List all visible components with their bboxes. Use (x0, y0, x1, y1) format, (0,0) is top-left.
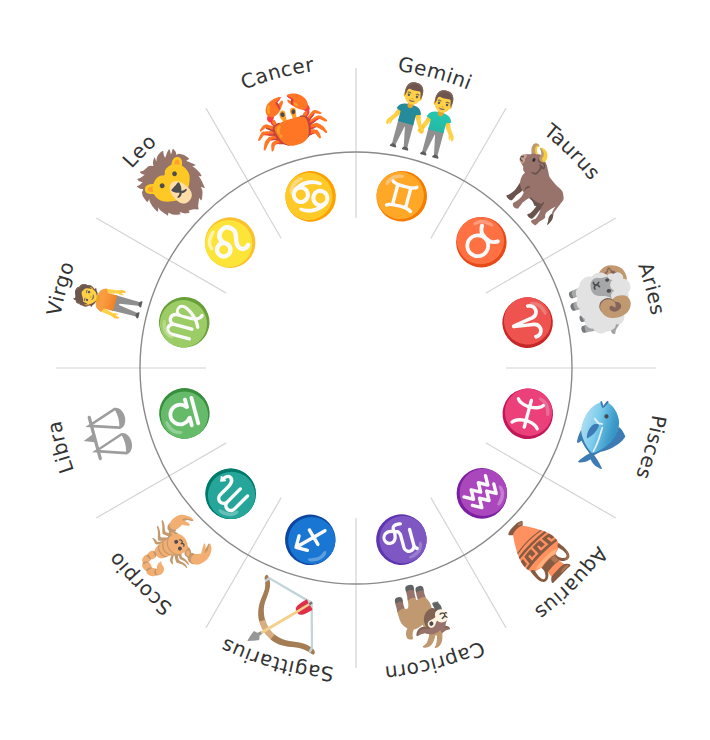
capricorn-goat-icon: ♑ (368, 506, 437, 573)
cancer-crab-icon: ♋ (275, 163, 344, 230)
libra-scales-icon: ♎ (151, 380, 218, 449)
pisces-fish-icon: ♓ (494, 380, 561, 449)
aries-ram-icon: ♈ (494, 287, 561, 356)
sagittarius-arrow-icon: ♐ (275, 506, 344, 573)
virgo-maiden-icon: ♍ (151, 287, 218, 356)
gemini-twins-icon: ♊ (368, 163, 437, 230)
zodiac-wheel: 👬🐂🐏🐟🏺🐐🏹🦂⚖🧍🦁🦀 ♊♉♈♓♒♑♐♏♎♍♌♋ GeminiTaurusAr… (0, 0, 710, 740)
center-hub (206, 218, 506, 518)
scales-icon: ⚖ (64, 398, 149, 471)
